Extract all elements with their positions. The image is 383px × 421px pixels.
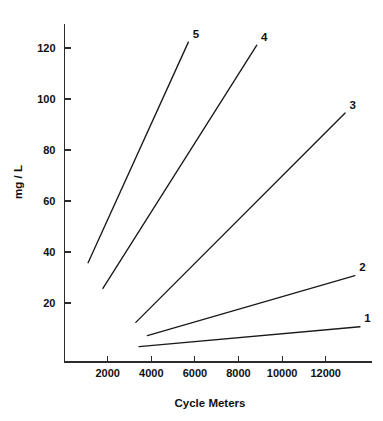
x-axis-title: Cycle Meters	[175, 397, 246, 409]
chart-figure: 20406080100120 2000400060008000100001200…	[0, 0, 383, 421]
x-axis-ticks	[108, 356, 326, 363]
series-label-2: 2	[359, 261, 365, 273]
chart-plot-area: 20406080100120 2000400060008000100001200…	[0, 0, 383, 421]
series-label-1: 1	[364, 312, 371, 324]
axes	[65, 24, 373, 362]
x-tick-label: 6000	[183, 367, 207, 379]
y-axis-ticks	[65, 48, 72, 303]
y-tick-label: 40	[43, 246, 55, 258]
y-tick-label: 60	[43, 195, 55, 207]
series-label-4: 4	[261, 31, 268, 43]
series-label-3: 3	[349, 99, 355, 111]
series-line-3	[136, 113, 345, 322]
y-axis-title: mg / L	[12, 165, 24, 199]
x-tick-label: 10000	[267, 367, 298, 379]
data-series-group	[88, 42, 360, 346]
series-line-1	[139, 327, 360, 347]
x-tick-label: 8000	[226, 367, 250, 379]
x-tick-label: 12000	[310, 367, 341, 379]
y-tick-label: 100	[37, 93, 55, 105]
series-line-5	[88, 42, 188, 263]
series-line-4	[103, 45, 257, 288]
x-tick-label: 4000	[139, 367, 163, 379]
x-axis-tick-labels: 20004000600080001000012000	[95, 367, 341, 379]
y-tick-label: 20	[43, 297, 55, 309]
y-axis-tick-labels: 20406080100120	[37, 42, 55, 309]
y-tick-label: 120	[37, 42, 55, 54]
series-line-2	[147, 276, 355, 336]
axis-lines	[65, 24, 373, 362]
series-label-5: 5	[193, 28, 200, 40]
y-tick-label: 80	[43, 144, 55, 156]
x-tick-label: 2000	[95, 367, 119, 379]
